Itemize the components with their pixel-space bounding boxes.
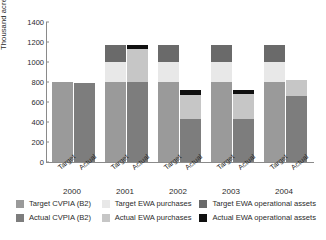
legend-label: Actual EWA operational assets xyxy=(212,213,316,222)
bar-target-2003[interactable] xyxy=(211,45,232,163)
bar-actual-2004[interactable] xyxy=(286,80,307,162)
legend-swatch-icon xyxy=(102,200,110,208)
legend-swatch-icon xyxy=(199,214,207,222)
bar-segment xyxy=(127,49,148,83)
bar-segment xyxy=(158,45,179,63)
bar-segment xyxy=(52,82,73,162)
y-tick-label: 0 xyxy=(40,158,44,167)
legend-swatch-icon xyxy=(16,214,24,222)
bar-target-2002[interactable] xyxy=(158,45,179,163)
legend-label: Actual EWA purchases xyxy=(115,213,192,222)
bar-segment xyxy=(105,45,126,63)
y-tick-label: 400 xyxy=(31,118,44,127)
legend-item[interactable]: Target CVPIA (B2) xyxy=(16,199,102,208)
legend-item[interactable]: Actual EWA operational assets xyxy=(199,213,316,222)
x-label-year: 2004 xyxy=(262,187,306,196)
legend-item[interactable]: Target EWA purchases xyxy=(102,199,200,208)
legend-swatch-icon xyxy=(16,200,24,208)
bar-segment xyxy=(233,94,254,119)
bar-target-2000[interactable] xyxy=(52,82,73,162)
bar-actual-2000[interactable] xyxy=(74,83,95,162)
y-axis-tick-labels: 1400120010008006004002000 xyxy=(0,22,44,163)
legend-row-actual: Actual CVPIA (B2)Actual EWA purchasesAct… xyxy=(16,213,316,227)
bar-actual-2001[interactable] xyxy=(127,45,148,163)
bar-target-2004[interactable] xyxy=(264,45,285,163)
legend-swatch-icon xyxy=(102,214,110,222)
bar-segment xyxy=(264,45,285,63)
y-tick-label: 1200 xyxy=(27,38,44,47)
bar-segment xyxy=(105,82,126,162)
bar-target-2001[interactable] xyxy=(105,45,126,163)
x-label-year: 2003 xyxy=(209,187,253,196)
legend-label: Target EWA purchases xyxy=(115,199,192,208)
legend-item[interactable]: Target EWA operational assets xyxy=(199,199,316,208)
legend-item[interactable]: Actual EWA purchases xyxy=(102,213,200,222)
legend-item[interactable]: Actual CVPIA (B2) xyxy=(16,213,102,222)
bar-segment xyxy=(180,95,201,120)
bar-segment xyxy=(211,82,232,162)
bar-chart: Thousand acre feet 140012001000800600400… xyxy=(0,0,326,240)
bar-segment xyxy=(211,62,232,82)
x-label-year: 2000 xyxy=(50,187,94,196)
legend-row-target: Target CVPIA (B2)Target EWA purchasesTar… xyxy=(16,199,316,213)
legend-label: Target CVPIA (B2) xyxy=(29,199,91,208)
y-tick-label: 1400 xyxy=(27,18,44,27)
y-tick-label: 600 xyxy=(31,98,44,107)
bar-segment xyxy=(127,82,148,162)
x-label-year: 2002 xyxy=(156,187,200,196)
bar-segment xyxy=(264,82,285,162)
bar-segment xyxy=(158,82,179,162)
y-tick-label: 800 xyxy=(31,78,44,87)
bar-segment xyxy=(105,62,126,82)
legend-label: Target EWA operational assets xyxy=(212,199,316,208)
bar-segment xyxy=(264,62,285,82)
x-label-year: 2001 xyxy=(103,187,147,196)
legend-label: Actual CVPIA (B2) xyxy=(29,213,91,222)
bar-segment xyxy=(158,62,179,82)
y-tick-label: 1000 xyxy=(27,58,44,67)
legend-swatch-icon xyxy=(199,200,207,208)
chart-legend: Target CVPIA (B2)Target EWA purchasesTar… xyxy=(16,199,316,227)
bar-segment xyxy=(74,83,95,162)
plot-area xyxy=(46,22,314,162)
bar-segment xyxy=(211,45,232,63)
y-tick-label: 200 xyxy=(31,138,44,147)
bar-segment xyxy=(286,80,307,96)
